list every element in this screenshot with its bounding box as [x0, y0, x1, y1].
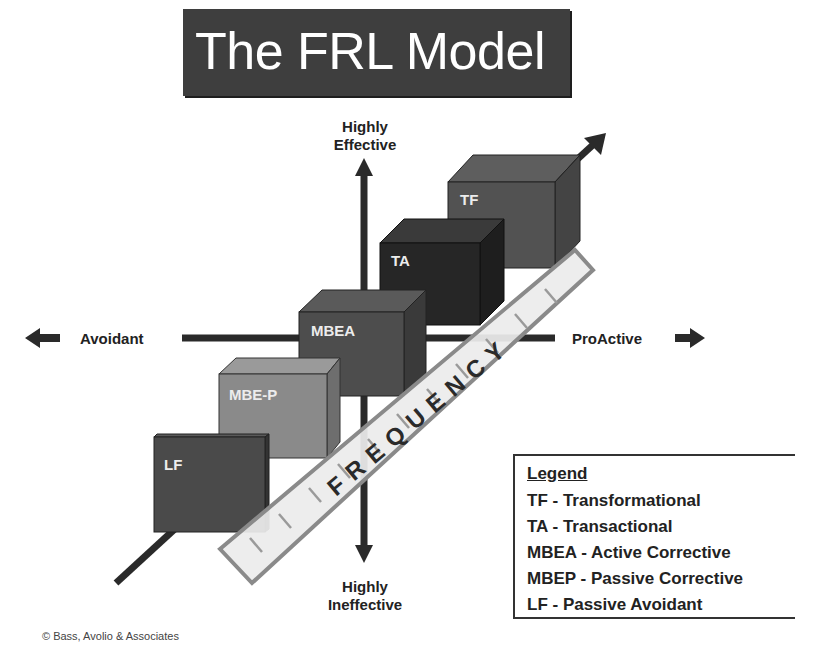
axis-label-top-line1: Highly: [322, 118, 408, 136]
box-label-ta: TA: [391, 252, 410, 269]
legend-item-mbep: MBEP - Passive Corrective: [527, 569, 743, 589]
axis-label-top-line2: Effective: [322, 136, 408, 154]
box-label-mbe-p: MBE-P: [229, 386, 277, 403]
copyright-notice: © Bass, Avolio & Associates: [42, 630, 179, 642]
legend-item-mbea: MBEA - Active Corrective: [527, 543, 731, 563]
axis-label-bottom: Highly Ineffective: [318, 578, 412, 614]
legend-item-ta: TA - Transactional: [527, 517, 672, 537]
down-arrow-icon: [355, 545, 373, 563]
box-label-tf: TF: [460, 191, 478, 208]
axis-label-left: Avoidant: [80, 330, 144, 347]
axis-label-bottom-line1: Highly: [318, 578, 412, 596]
box-label-mbea: MBEA: [311, 322, 355, 339]
up-arrow-icon: [355, 158, 373, 176]
axis-label-bottom-line2: Ineffective: [318, 596, 412, 614]
box-lf: [154, 434, 269, 532]
legend-title: Legend: [527, 464, 587, 484]
axis-label-right: ProActive: [572, 330, 642, 347]
box-label-lf: LF: [164, 456, 182, 473]
legend-box: Legend TF - Transformational TA - Transa…: [513, 454, 795, 619]
right-arrow-icon: [675, 328, 705, 348]
legend-item-tf: TF - Transformational: [527, 491, 701, 511]
axis-label-top: Highly Effective: [322, 118, 408, 154]
legend-item-lf: LF - Passive Avoidant: [527, 595, 702, 615]
left-arrow-icon: [25, 328, 60, 348]
